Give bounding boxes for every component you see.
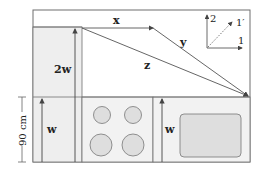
- sink-basin: [180, 114, 241, 157]
- label-x: x: [113, 14, 120, 27]
- burner-top-left: [94, 107, 111, 124]
- label-axis-2: 2: [210, 13, 216, 24]
- label-w-right: w: [164, 123, 175, 136]
- burner-top-right: [125, 107, 142, 124]
- label-axis-1: 1: [238, 35, 244, 46]
- label-w-left: w: [46, 123, 57, 136]
- label-2w: 2w: [54, 63, 72, 76]
- label-axis-1prime: 1′: [236, 17, 245, 28]
- label-90cm: 90 cm: [17, 114, 28, 146]
- label-y: y: [179, 36, 187, 49]
- burner-bottom-right: [122, 134, 144, 156]
- label-z: z: [144, 59, 150, 72]
- burner-bottom-left: [90, 134, 112, 156]
- kitchen-diagram: x y z 2w w w 90 cm 2 1 1′: [0, 0, 259, 177]
